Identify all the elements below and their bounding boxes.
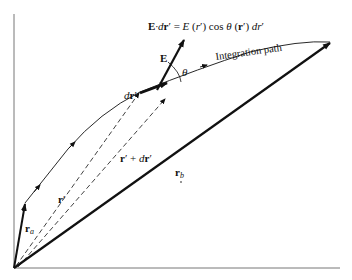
r-a-label: ra [25, 222, 34, 236]
r-prime-plus-dr-label: r′ + dr′ [120, 152, 152, 164]
path-arrow-1 [34, 185, 40, 192]
integration-path-curve [25, 42, 330, 203]
dr-prime-vector [140, 83, 167, 93]
integration-path-label: Integration path [215, 42, 283, 62]
equation-label: E·dr′ = E (r′) cos θ (r′) dr′ [148, 20, 264, 33]
r-b-vector [14, 43, 330, 268]
r-b-label: rb [175, 166, 184, 180]
r-a-vector [14, 204, 25, 268]
path-arrow-2 [69, 142, 75, 148]
E-vector [157, 40, 184, 90]
r-prime-label: r′ [58, 193, 65, 205]
dr-prime-label: dr′ [124, 89, 137, 101]
r-prime-plus-dr-vector [18, 99, 165, 267]
line-integral-diagram: E·dr′ = E (r′) cos θ (r′) dr′ E θ Integr… [0, 0, 352, 280]
theta-label: θ [182, 66, 188, 78]
diagram-svg: E·dr′ = E (r′) cos θ (r′) dr′ E θ Integr… [0, 0, 352, 280]
r-prime-vector [16, 93, 139, 266]
E-vector-label: E [160, 52, 167, 64]
r-b-dot [180, 181, 182, 183]
